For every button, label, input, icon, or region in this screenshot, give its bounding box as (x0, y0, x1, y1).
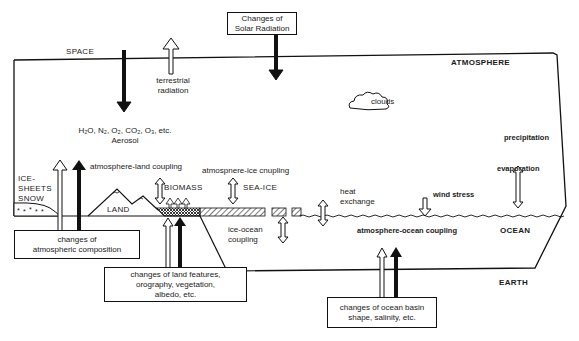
land-line1: changes of land features, (105, 270, 246, 280)
heat-exchange-line1: heat (340, 187, 356, 196)
terrestrial-radiation-arrow (163, 38, 179, 74)
sea-ice-block-2 (272, 208, 286, 216)
ice-sheets-line1: ICE- (18, 174, 35, 183)
precipitation-label: precipitation (504, 133, 549, 143)
solar-line2: Solar Radiation (228, 24, 296, 34)
atmospheric-constituents: H₂O, N₂, O₂, CO₂, O₃, etc. Aerosol (60, 126, 190, 146)
heat-exchange-label: heat exchange (340, 187, 375, 207)
ocean-basin-line2: shape, salinity, etc. (328, 313, 436, 323)
solar-radiation-arrows (117, 35, 283, 112)
solar-line1: Changes of (228, 14, 296, 24)
land-line3: albedo, etc. (105, 290, 246, 300)
biomass-block (156, 208, 200, 216)
ocean-basin-line1: changes of ocean basin (328, 303, 436, 313)
clouds-label: clouds (371, 97, 394, 107)
sea-ice-block-1 (200, 208, 265, 216)
sea-ice-block-3 (292, 208, 301, 216)
double-arrows (155, 166, 523, 243)
wind-stress-label: wind stress (433, 190, 474, 200)
biomass-arrows (166, 198, 190, 208)
evaporation-label: evaporation (497, 164, 540, 174)
svg-text:*: * (23, 208, 26, 215)
ice-sheets-snow-label: ICE- SHEETS SNOW (18, 174, 52, 204)
earth-label: EARTH (499, 278, 528, 288)
ice-ocean-coupling-label: ice-ocean coupling (228, 225, 263, 245)
constituents-line1: H₂O, N₂, O₂, CO₂, O₃, etc. (78, 126, 171, 135)
land-label: LAND (107, 205, 130, 215)
svg-text:*: * (41, 208, 44, 215)
atmosphere-land-coupling-label: atmosphere-land coupling (90, 162, 182, 172)
sea-ice-label: SEA-ICE (243, 183, 277, 193)
atmosphere-label: ATMOSPHERE (451, 58, 510, 68)
atm-composition-arrows (53, 160, 86, 232)
ice-ocean-line2: coupling (228, 235, 258, 244)
ocean-basin-forcing-box: changes of ocean basin shape, salinity, … (327, 297, 437, 328)
atm-comp-line1: changes of (15, 235, 139, 245)
svg-text:*: * (17, 207, 20, 214)
solar-radiation-forcing-box: Changes of Solar Radiation (227, 12, 297, 35)
space-label: SPACE (66, 47, 94, 57)
ocean-surface (300, 215, 564, 217)
heat-exchange-line2: exchange (340, 197, 375, 206)
svg-text:*: * (35, 208, 38, 215)
wind-stress-arrow (419, 198, 431, 216)
atm-comp-line2: atmospheric composition (15, 245, 139, 255)
atmosphere-ice-coupling-label: atmospnere-ice cnupling (202, 166, 289, 176)
land-line2: orography, vegetation, (105, 280, 246, 290)
atmospheric-composition-forcing-box: changes of atmospheric composition (14, 230, 140, 259)
land-features-forcing-box: changes of land features, orography, veg… (104, 267, 247, 302)
atmosphere-ocean-coupling-label: atmosphere-ocean coupling (357, 226, 457, 236)
ice-ocean-line1: ice-ocean (228, 225, 263, 234)
ice-sheets-line2: SHEETS (18, 184, 52, 193)
terrestrial-radiation-line1: terrestrial (156, 76, 189, 85)
constituents-line2: Aerosol (111, 136, 138, 145)
ocean-basin-arrows (377, 247, 402, 298)
terrestrial-radiation-label: terrestrial radiation (150, 76, 196, 96)
ocean-floor (200, 216, 227, 271)
ice-sheets-line3: SNOW (18, 194, 44, 203)
land-feature-arrows (163, 217, 186, 268)
terrestrial-radiation-line2: radiation (158, 86, 189, 95)
biomass-label: BIOMASS (164, 183, 203, 193)
ocean-label: OCEAN (500, 226, 530, 236)
svg-text:*: * (29, 206, 32, 213)
